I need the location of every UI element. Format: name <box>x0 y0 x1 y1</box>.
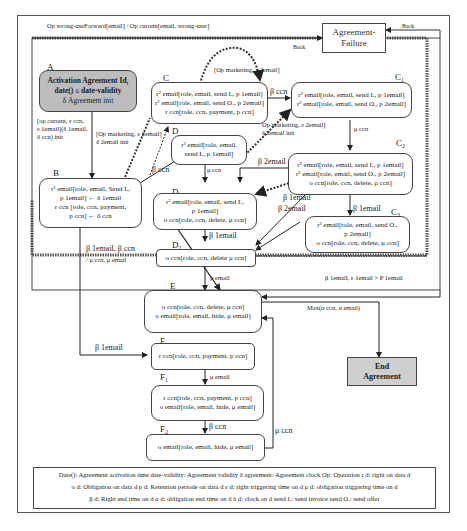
transition-label-group-e: β 1email, ε 1email > P 1email <box>325 274 403 282</box>
transition-label-c2-d1: β 2email <box>258 158 286 166</box>
transition-label-c-c1: β ccn <box>270 88 287 96</box>
state-c2-line: r² email[role, email, send I., p 1email] <box>292 161 409 170</box>
state-f1-line: o email[role, email, hide, μ email] <box>155 403 260 412</box>
state-d1-line: p 1email] <box>157 207 253 216</box>
transition-label-c-loop: [Op marketing, ε 2email] <box>214 66 280 74</box>
transition-label-b-c: β ccn <box>152 166 169 174</box>
transition-label-a-d: [Op marketing, ε 2email]δ 2email init <box>96 130 162 146</box>
state-a-line: date() ≤ date-validity <box>43 86 133 96</box>
state-d-line: r² email[role, email, <box>175 141 243 150</box>
agreement-failure-line2: Failure <box>323 38 385 49</box>
state-d2-line: o ccn[role, ccn, delete μ ccn] <box>160 254 252 263</box>
state-f: r ccn[role, ccn, payment, p ccn] <box>151 343 255 370</box>
transition-label-f2-e: μ ccn <box>275 427 292 435</box>
state-c-line: r² email[role, email, send O., p 2email] <box>155 99 264 108</box>
state-b-line: p 1email] ← δ 1email <box>43 194 138 203</box>
state-a-activation: Activation Agreement Id, date() ≤ date-v… <box>39 70 137 112</box>
transition-label-c3-d2: β 2email <box>278 205 306 213</box>
state-c3: r² email[role, email, send O., p 2email]… <box>305 216 410 253</box>
legend-row: o d: Obligation on data d p d: Retention… <box>34 481 435 493</box>
state-d1-line: o ccn[role, ccn, delete, μ ccn] <box>157 216 253 225</box>
state-c2-line: r² email[role, email, send O., p 2email] <box>292 170 409 179</box>
state-e-line: o ccn[role, ccn, delete, μ ccn] <box>148 303 258 312</box>
transition-label-f-f1: μ email <box>210 373 230 381</box>
state-f2-line: o email[role, email, hide, μ email] <box>150 443 261 452</box>
state-d1-line: r² email[role, email, send I., <box>157 198 253 207</box>
state-f1-line: r ccn[role, ccn, payment, p ccn] <box>155 394 260 403</box>
legend: Date(): Agreement activation time date-v… <box>33 467 436 509</box>
state-tag-f2: F₂ <box>160 424 168 434</box>
state-c3-line: o ccn[role, ccn, delete, μ ccn] <box>309 239 406 248</box>
state-b-line: r² email[role, email, Send I., <box>43 185 138 194</box>
transition-label-b-f: β 1email <box>95 344 123 352</box>
state-f1: r ccn[role, ccn, payment, p ccn] o email… <box>151 385 264 421</box>
state-c2-line: o ccn[role, ccn, delete, μ ccn] <box>292 179 409 188</box>
state-c: r² email[role, email, send I., p 1email]… <box>151 82 268 124</box>
state-c-line: r² email[role, email, send I., p 1email] <box>155 90 264 99</box>
agreement-failure-line1: Agreement- <box>323 27 385 38</box>
end-agreement-line1: End <box>348 362 416 372</box>
back-label-top: Back <box>293 43 305 51</box>
state-d: r² email[role, email, send I., p 1email] <box>171 135 247 165</box>
state-b-line: p ccn] ← δ ccn <box>43 212 138 221</box>
top-transition-label: Op wrong-useForward[email] / Op current[… <box>47 22 209 30</box>
state-d1: r² email[role, email, send I., p 1email]… <box>153 193 257 230</box>
state-a-line: δ Agreement init <box>43 96 133 106</box>
state-c-line: r ccn[role, ccn, payment, p ccn] <box>155 108 264 117</box>
transition-label-a-b: [op current, ε ccn,ε 1email](δ 1email,δ … <box>37 117 87 141</box>
state-e: o ccn[role, ccn, delete, μ ccn] o email[… <box>144 290 262 333</box>
state-b: r² email[role, email, Send I., p 1email]… <box>39 178 142 228</box>
state-d-line: send I., p 1email] <box>175 150 243 159</box>
transition-label-d-d1: μ ccn <box>207 166 221 174</box>
state-f-line: r ccn[role, ccn, payment, p ccn] <box>155 352 251 361</box>
state-d2: o ccn[role, ccn, delete μ ccn] <box>156 249 256 267</box>
state-c3-line: r² email[role, email, send O., <box>309 221 406 230</box>
legend-row: Date(): Agreement activation time date-v… <box>34 469 435 481</box>
transition-label-f1-f2: β ccn <box>209 423 226 431</box>
end-agreement-state: End Agreement <box>347 357 417 386</box>
transition-label-c2-d2: β 1email <box>283 194 311 202</box>
state-a-line: Activation Agreement Id, <box>43 76 133 86</box>
state-c2: r² email[role, email, send I., p 1email]… <box>288 153 413 195</box>
transition-label-d2-e: μ email <box>210 274 230 282</box>
end-agreement-line2: Agreement <box>348 372 416 382</box>
agreement-failure-state: Agreement- Failure <box>322 23 386 53</box>
back-label-right: Back <box>402 22 414 30</box>
state-c3-line: p 2email] <box>309 230 406 239</box>
transition-label-c2-c3: β 1email <box>353 205 381 213</box>
state-e-line: o email[role, email, hide, μ email] <box>148 312 258 321</box>
transition-label-b-e: β 1email, β ccn/ μ ccn, μ email <box>86 243 135 265</box>
legend-row: β d: Right end time on d α d: obligation… <box>34 493 435 505</box>
state-tag-f1: F₁ <box>160 372 168 382</box>
transition-label-d-c1: Op marketing, ε 2email]δ 2email init <box>262 121 325 137</box>
state-tag-c2: C₂ <box>396 138 405 148</box>
transition-label-d1-d2: β 1email <box>209 232 237 240</box>
state-tag-b: B <box>53 168 59 178</box>
state-f2: o email[role, email, hide, μ email] <box>146 434 265 461</box>
transition-label-e-end: Max(α ccn, α email) <box>307 304 360 312</box>
transition-label-c1-c2: μ ccn <box>354 125 368 133</box>
state-b-line: r ccn [role, ccn, payment, <box>43 203 138 212</box>
state-c1: r² email[role, email, send I., p 1email]… <box>291 82 412 118</box>
state-c1-line: r² email[role, email, send I., p 1email] <box>295 91 408 100</box>
state-tag-c1: C₁ <box>395 72 404 82</box>
state-c1-line: r² email[role, email, send O., p 2email] <box>295 100 408 109</box>
